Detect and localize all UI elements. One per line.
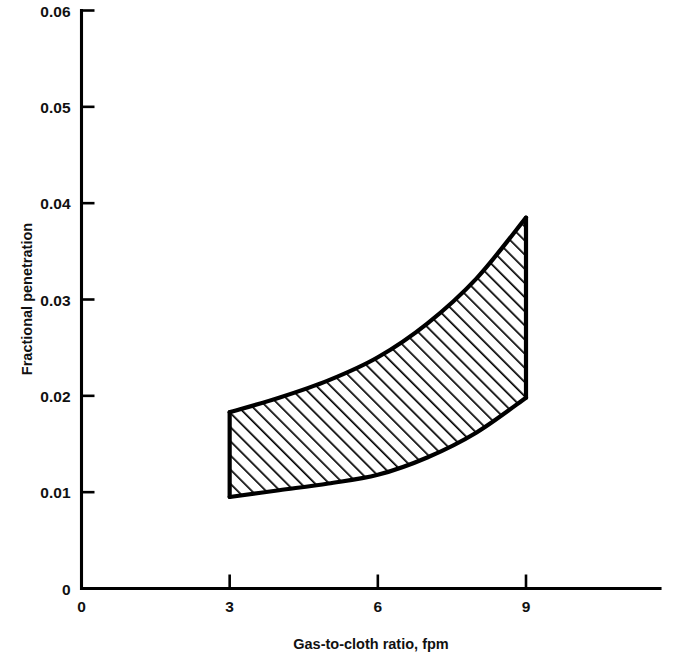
y-axis-title: Fractional penetration xyxy=(19,223,35,375)
axes-group: 00.010.020.030.040.050.06 0369 xyxy=(40,3,660,615)
plot-area xyxy=(230,218,526,497)
y-tick-label: 0.05 xyxy=(40,99,71,116)
x-tick-label: 0 xyxy=(77,598,86,615)
x-tick-label: 3 xyxy=(225,598,234,615)
y-tick-label: 0.01 xyxy=(40,484,71,501)
x-axis-ticks xyxy=(230,575,526,589)
y-axis-ticks xyxy=(82,11,95,493)
y-axis-tick-labels: 00.010.020.030.040.050.06 xyxy=(40,3,71,598)
x-axis-title: Gas-to-cloth ratio, fpm xyxy=(293,636,448,652)
x-tick-label: 6 xyxy=(374,598,383,615)
x-axis-tick-labels: 0369 xyxy=(77,598,531,615)
y-tick-label: 0.06 xyxy=(40,3,71,20)
penetration-vs-gas-to-cloth-chart: 00.010.020.030.040.050.06 0369 Gas-to-cl… xyxy=(0,0,683,662)
y-tick-label: 0 xyxy=(62,581,71,598)
y-tick-label: 0.03 xyxy=(40,292,71,309)
x-tick-label: 9 xyxy=(522,598,531,615)
chart-figure: 00.010.020.030.040.050.06 0369 Gas-to-cl… xyxy=(0,0,683,662)
axis-lines xyxy=(82,11,661,589)
y-tick-label: 0.04 xyxy=(40,195,71,212)
y-tick-label: 0.02 xyxy=(40,388,70,405)
